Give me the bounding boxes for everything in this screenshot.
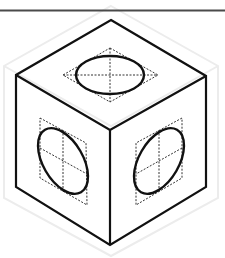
right-face-construction bbox=[124, 118, 195, 205]
isometric-cube-diagram bbox=[0, 0, 225, 258]
cube-top-front-edges bbox=[16, 75, 206, 130]
diagram-canvas bbox=[0, 0, 225, 258]
left-face-construction bbox=[28, 118, 99, 205]
cube-outline bbox=[16, 20, 206, 245]
top-face-construction bbox=[63, 48, 158, 102]
ghost-inner-edges bbox=[4, 66, 218, 126]
